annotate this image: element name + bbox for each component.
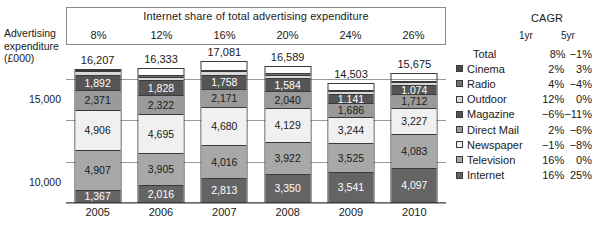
legend-row[interactable]: Newspaper−1%−8% bbox=[456, 137, 592, 152]
segment-value-label: 1,828 bbox=[148, 83, 174, 94]
legend-row[interactable]: Television16%0% bbox=[456, 152, 592, 167]
legend-swatch-icon bbox=[456, 65, 463, 72]
bar-segment-internet[interactable]: 3,350 bbox=[265, 175, 310, 202]
banner-values-row: 8%12%16%20%24%26% bbox=[67, 27, 445, 44]
bar-segment-newspaper[interactable]: 4,129 bbox=[265, 109, 310, 143]
segment-value-label: 4,906 bbox=[85, 125, 111, 136]
stacked-bar[interactable]: 1,8282,3224,6953,9052,016 bbox=[137, 68, 184, 203]
legend-row[interactable]: Internet16%25% bbox=[456, 168, 592, 183]
segment-value-label: 3,922 bbox=[275, 153, 301, 164]
cagr-1yr-value: 4% bbox=[538, 78, 564, 90]
bar-segment-internet[interactable]: 4,097 bbox=[392, 169, 437, 202]
segment-value-label: 2,322 bbox=[148, 100, 174, 111]
bar-segment-magazine[interactable]: 1,892 bbox=[75, 76, 120, 91]
y-axis-tick-label: 15,000 bbox=[29, 93, 61, 105]
stacked-bar[interactable]: 1,0741,7123,2274,0834,097 bbox=[391, 73, 438, 203]
y-axis-title-line3: (£000) bbox=[4, 52, 66, 65]
bar-segment-newspaper[interactable]: 4,680 bbox=[202, 108, 247, 146]
bar-total-label: 14,503 bbox=[334, 68, 368, 80]
cagr-1yr-value: −6% bbox=[538, 108, 564, 120]
segment-value-label: 2,016 bbox=[148, 189, 174, 200]
stacked-bar[interactable]: 1,1411,6863,2443,5253,541 bbox=[327, 83, 374, 203]
x-axis-tick-label: 2010 bbox=[402, 206, 426, 218]
bar-segment-magazine[interactable]: 1,758 bbox=[202, 76, 247, 90]
segment-value-label: 2,171 bbox=[211, 93, 237, 104]
cagr-5yr-value: −1% bbox=[566, 48, 592, 60]
internet-share-banner: Internet share of total advertising expe… bbox=[66, 7, 446, 45]
bar-segment-television[interactable]: 4,016 bbox=[202, 146, 247, 179]
bar-segment-direct-mail[interactable]: 2,171 bbox=[202, 90, 247, 108]
bar-segment-television[interactable]: 4,083 bbox=[392, 135, 437, 168]
segment-value-label: 2,813 bbox=[211, 185, 237, 196]
bar-segment-direct-mail[interactable]: 1,712 bbox=[392, 95, 437, 109]
segment-value-label: 3,244 bbox=[338, 125, 364, 136]
segment-value-label: 4,097 bbox=[401, 180, 427, 191]
stacked-bar[interactable]: 1,7582,1714,6804,0162,813 bbox=[201, 61, 248, 203]
cagr-1yr-value: 8% bbox=[541, 48, 566, 60]
bar-segment-television[interactable]: 4,907 bbox=[75, 151, 120, 191]
bar-segment-direct-mail[interactable]: 1,686 bbox=[328, 104, 373, 118]
bar-segment-television[interactable]: 3,922 bbox=[265, 143, 310, 175]
y-axis-tick-label: 10,000 bbox=[29, 176, 61, 188]
bar-segment-internet[interactable]: 2,813 bbox=[202, 179, 247, 202]
segment-value-label: 1,141 bbox=[338, 95, 364, 104]
bar-total-label: 17,081 bbox=[207, 46, 241, 58]
y-axis-title-line2: expenditure bbox=[4, 40, 66, 53]
bar-column[interactable]: 1,1411,6863,2443,5253,54114,5032009 bbox=[319, 58, 382, 203]
bar-segment-magazine[interactable]: 1,584 bbox=[265, 79, 310, 92]
y-axis-title: Advertising expenditure (£000) bbox=[4, 27, 66, 65]
legend: Total8%−1%Cinema2%3%Radio4%−4%Outdoor12%… bbox=[456, 46, 592, 183]
cagr-5yr-value: −6% bbox=[564, 124, 592, 136]
segment-value-label: 1,712 bbox=[401, 96, 427, 107]
legend-row[interactable]: Direct Mail2%−6% bbox=[456, 122, 592, 137]
segment-value-label: 1,686 bbox=[338, 105, 364, 116]
bar-segment-television[interactable]: 3,905 bbox=[138, 154, 183, 186]
segment-value-label: 3,905 bbox=[148, 164, 174, 175]
bar-column[interactable]: 1,0741,7123,2274,0834,09715,6752010 bbox=[383, 58, 446, 203]
cagr-column-headers: 1yr 5yr bbox=[505, 30, 589, 41]
segment-value-label: 2,371 bbox=[85, 95, 111, 106]
bar-segment-television[interactable]: 3,525 bbox=[328, 144, 373, 173]
legend-row[interactable]: Magazine−6%−11% bbox=[456, 107, 592, 122]
bar-segment-direct-mail[interactable]: 2,322 bbox=[138, 96, 183, 115]
legend-swatch-icon bbox=[456, 96, 463, 103]
internet-share-value: 12% bbox=[130, 27, 193, 44]
x-axis-tick-label: 2008 bbox=[275, 206, 299, 218]
bar-segment-internet[interactable]: 3,541 bbox=[328, 173, 373, 202]
stacked-bar[interactable]: 1,5842,0404,1293,9223,350 bbox=[264, 66, 311, 203]
legend-label: Television bbox=[467, 154, 538, 166]
bar-segment-newspaper[interactable]: 3,244 bbox=[328, 118, 373, 144]
bar-segment-newspaper[interactable]: 3,227 bbox=[392, 109, 437, 135]
cagr-5yr-value: 3% bbox=[564, 63, 592, 75]
bar-column[interactable]: 1,8282,3224,6953,9052,01616,3332006 bbox=[129, 58, 192, 203]
cagr-1yr-value: 2% bbox=[538, 63, 564, 75]
legend-row[interactable]: Outdoor12%0% bbox=[456, 92, 592, 107]
legend-row[interactable]: Total8%−1% bbox=[456, 46, 592, 61]
bar-column[interactable]: 1,5842,0404,1293,9223,35016,5892008 bbox=[256, 58, 319, 203]
cagr-1yr-value: 12% bbox=[538, 93, 564, 105]
bar-segment-internet[interactable]: 2,016 bbox=[138, 186, 183, 202]
bar-column[interactable]: 1,8922,3714,9064,9071,36716,2072005 bbox=[66, 58, 129, 203]
cagr-1yr-value: 2% bbox=[538, 124, 564, 136]
segment-value-label: 4,907 bbox=[85, 165, 111, 176]
bar-segment-newspaper[interactable]: 4,906 bbox=[75, 111, 120, 151]
bar-total-label: 16,589 bbox=[271, 51, 305, 63]
stacked-bar[interactable]: 1,8922,3714,9064,9071,367 bbox=[74, 69, 121, 203]
bar-segment-magazine[interactable]: 1,074 bbox=[392, 86, 437, 95]
legend-row[interactable]: Radio4%−4% bbox=[456, 76, 592, 91]
bar-segment-direct-mail[interactable]: 2,371 bbox=[75, 91, 120, 110]
bar-segment-direct-mail[interactable]: 2,040 bbox=[265, 92, 310, 109]
x-axis-tick-label: 2007 bbox=[212, 206, 236, 218]
internet-share-value: 20% bbox=[256, 27, 319, 44]
legend-row[interactable]: Cinema2%3% bbox=[456, 61, 592, 76]
legend-label: Total bbox=[467, 48, 541, 60]
bar-segment-magazine[interactable]: 1,828 bbox=[138, 81, 183, 96]
segment-value-label: 4,129 bbox=[275, 120, 301, 131]
bar-segment-internet[interactable]: 1,367 bbox=[75, 191, 120, 202]
legend-label: Cinema bbox=[467, 63, 538, 75]
bar-segment-magazine[interactable]: 1,141 bbox=[328, 95, 373, 104]
bar-segment-newspaper[interactable]: 4,695 bbox=[138, 115, 183, 153]
internet-share-value: 8% bbox=[67, 27, 130, 44]
cagr-5yr-value: 0% bbox=[564, 93, 592, 105]
bar-column[interactable]: 1,7582,1714,6804,0162,81317,0812007 bbox=[193, 58, 256, 203]
